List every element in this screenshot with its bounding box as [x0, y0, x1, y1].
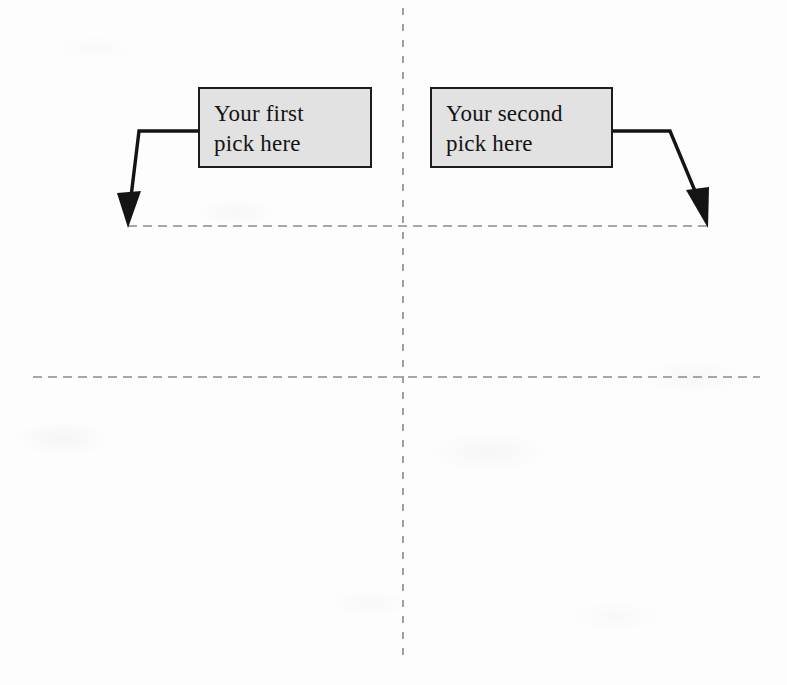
arrow-second-pick — [613, 131, 709, 228]
figure-canvas: Your first pick here Your second pick he… — [0, 0, 787, 685]
callout-box-second-pick: Your second pick here — [430, 87, 613, 168]
arrows-layer — [0, 0, 787, 685]
arrowhead-first-pick — [117, 191, 141, 228]
callout-box-first-pick: Your first pick here — [198, 87, 372, 168]
arrowhead-second-pick — [686, 187, 709, 228]
arrow-first-pick — [117, 131, 198, 228]
